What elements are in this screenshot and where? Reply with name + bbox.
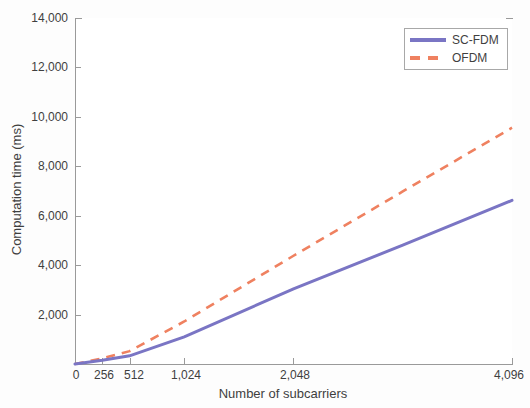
y-axis-line: [75, 18, 76, 365]
x-tick-mark: [512, 358, 513, 364]
legend-item-ofdm[interactable]: OFDM: [405, 49, 509, 67]
legend-swatch-sc-fdm: [410, 38, 446, 42]
y-tick-mark: [75, 265, 81, 266]
axis-corner-stub-top-right: [506, 18, 513, 19]
x-axis-title: Number of subcarriers: [0, 386, 530, 401]
y-tick-label-wrap: 14,000: [0, 12, 68, 24]
chart-figure: 14,000 12,000 10,000 8,000 6,000 4,000 2…: [0, 0, 530, 408]
y-axis-title: Computation time (ms): [9, 90, 24, 290]
legend: SC-FDM OFDM: [404, 28, 508, 70]
y-tick-label-wrap: 2,000: [0, 309, 68, 321]
x-axis-title-text: Number of subcarriers: [219, 386, 348, 401]
x-tick-label: 4,096: [494, 368, 524, 382]
y-tick-mark: [75, 315, 81, 316]
y-tick-label: 12,000: [6, 61, 68, 73]
x-tick-label: 2,048: [280, 368, 310, 382]
x-tick-mark: [75, 358, 76, 364]
y-tick-label: 2,000: [6, 309, 68, 321]
y-tick-mark: [75, 166, 81, 167]
x-tick-label: 0: [73, 368, 80, 382]
legend-label-ofdm: OFDM: [452, 51, 487, 65]
legend-label-sc-fdm: SC-FDM: [452, 33, 499, 47]
y-tick-label-wrap: 12,000: [0, 61, 68, 73]
x-tick-mark: [102, 358, 103, 364]
x-tick-mark: [130, 358, 131, 364]
y-tick-mark: [75, 117, 81, 118]
legend-swatch-ofdm: [410, 56, 446, 60]
y-tick-mark: [75, 216, 81, 217]
y-tick-mark: [75, 67, 81, 68]
x-tick-label: 256: [94, 368, 114, 382]
x-axis-line: [75, 364, 513, 365]
y-tick-label: 14,000: [6, 12, 68, 24]
x-tick-label: 512: [124, 368, 144, 382]
legend-item-sc-fdm[interactable]: SC-FDM: [405, 31, 509, 49]
y-tick-mark: [75, 18, 81, 19]
x-tick-mark: [184, 358, 185, 364]
x-tick-mark: [293, 358, 294, 364]
x-tick-label: 1,024: [171, 368, 201, 382]
